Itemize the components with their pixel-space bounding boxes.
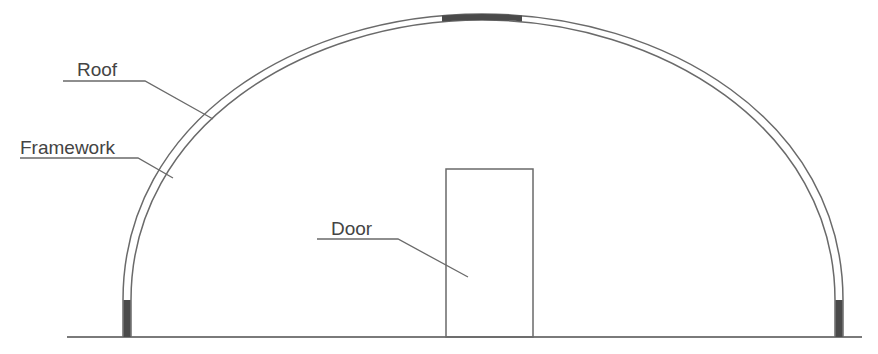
greenhouse-diagram: Roof Framework Door xyxy=(0,0,878,354)
framework-inner-arc xyxy=(131,20,835,337)
roof-outer-arc xyxy=(123,14,843,337)
roof-label: Roof xyxy=(77,59,118,80)
framework-label: Framework xyxy=(20,137,116,158)
diagram-svg: Roof Framework Door xyxy=(0,0,878,354)
door xyxy=(446,169,533,337)
left-base-post xyxy=(124,300,131,337)
framework-leader-line xyxy=(20,158,173,178)
right-base-post xyxy=(836,300,843,337)
door-label: Door xyxy=(331,218,373,239)
roof-leader-line xyxy=(63,81,213,119)
